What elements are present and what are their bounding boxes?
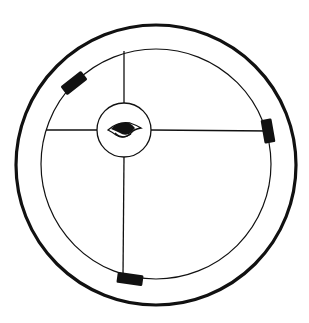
blocks-group — [60, 71, 275, 287]
wheel-diagram — [0, 0, 309, 323]
outer-ring — [16, 25, 296, 305]
block-bottom — [116, 272, 143, 287]
spoke-right — [151, 130, 270, 131]
block-right — [260, 118, 275, 144]
spoke-bottom — [123, 157, 124, 276]
diagram-svg — [0, 0, 309, 323]
block-upper-left — [60, 71, 87, 96]
